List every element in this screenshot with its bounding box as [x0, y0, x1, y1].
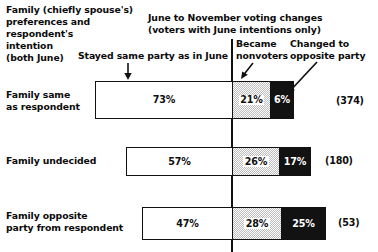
bar-value-label: 17%	[284, 157, 306, 167]
bar-value-label: 6%	[274, 95, 290, 105]
arrow-diagonal-icon	[239, 62, 256, 81]
stacked-bar-row: 47% 28% 25%	[142, 207, 326, 240]
bar-value-label: 57%	[168, 157, 190, 167]
bar-value-label: 25%	[292, 219, 314, 229]
bar-value-label: 26%	[243, 156, 268, 167]
bar-segment-nonvoters: 26%	[232, 148, 280, 175]
bar-value-label: 21%	[239, 95, 264, 106]
row-count: (374)	[336, 95, 364, 106]
bar-value-label: 47%	[176, 219, 198, 229]
bar-segment-opposite: 25%	[282, 208, 325, 239]
legend-label-stayed-same-party: Stayed same party as in June	[78, 50, 228, 62]
bar-segment-stayed: 57%	[127, 148, 232, 175]
stacked-bar-chart-figure: Family (chiefly spouse's) preferences an…	[0, 0, 378, 252]
bar-segment-opposite: 17%	[280, 148, 310, 175]
stacked-bar-row: 73% 21% 6%	[95, 81, 294, 119]
chart-title: June to November voting changes (voters …	[148, 12, 358, 36]
arrow-down-icon	[122, 63, 134, 80]
bar-value-label: 73%	[153, 95, 175, 105]
legend-label-changed-opposite-party: Changed to opposite party	[290, 38, 365, 61]
row-count: (180)	[325, 155, 353, 166]
bar-value-label: 28%	[244, 218, 269, 229]
bar-segment-stayed: 73%	[96, 82, 232, 118]
legend-label-became-nonvoters: Became nonvoters	[236, 38, 288, 61]
bar-segment-opposite: 6%	[271, 82, 293, 118]
bar-segment-nonvoters: 28%	[232, 208, 282, 239]
bar-segment-stayed: 47%	[143, 208, 232, 239]
row-label-family-opposite: Family opposite party from respondent	[6, 210, 126, 234]
bar-segment-nonvoters: 21%	[232, 82, 271, 118]
row-label-family-undecided: Family undecided	[6, 155, 126, 167]
row-count: (53)	[338, 217, 359, 228]
stacked-bar-row: 57% 26% 17%	[126, 147, 311, 176]
